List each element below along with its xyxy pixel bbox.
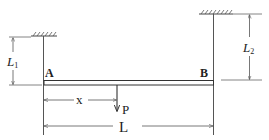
x-label: x [76, 92, 83, 107]
beam [44, 81, 214, 86]
l-dimension: L [44, 119, 213, 135]
left-support [31, 32, 57, 36]
l2-label: L2 [242, 40, 254, 56]
load-p: P [117, 85, 129, 117]
x-dimension: x [44, 92, 117, 107]
l1-label: L1 [6, 54, 18, 70]
l1-dimension: L1 [6, 37, 42, 85]
load-label: P [122, 102, 129, 117]
l2-dimension: L2 [221, 14, 262, 80]
l-label: L [119, 119, 128, 135]
right-support [199, 10, 233, 14]
beam-diagram: L1 L2 A B P x L [0, 0, 269, 140]
end-label-b: B [200, 66, 208, 80]
end-label-a: A [45, 66, 54, 80]
